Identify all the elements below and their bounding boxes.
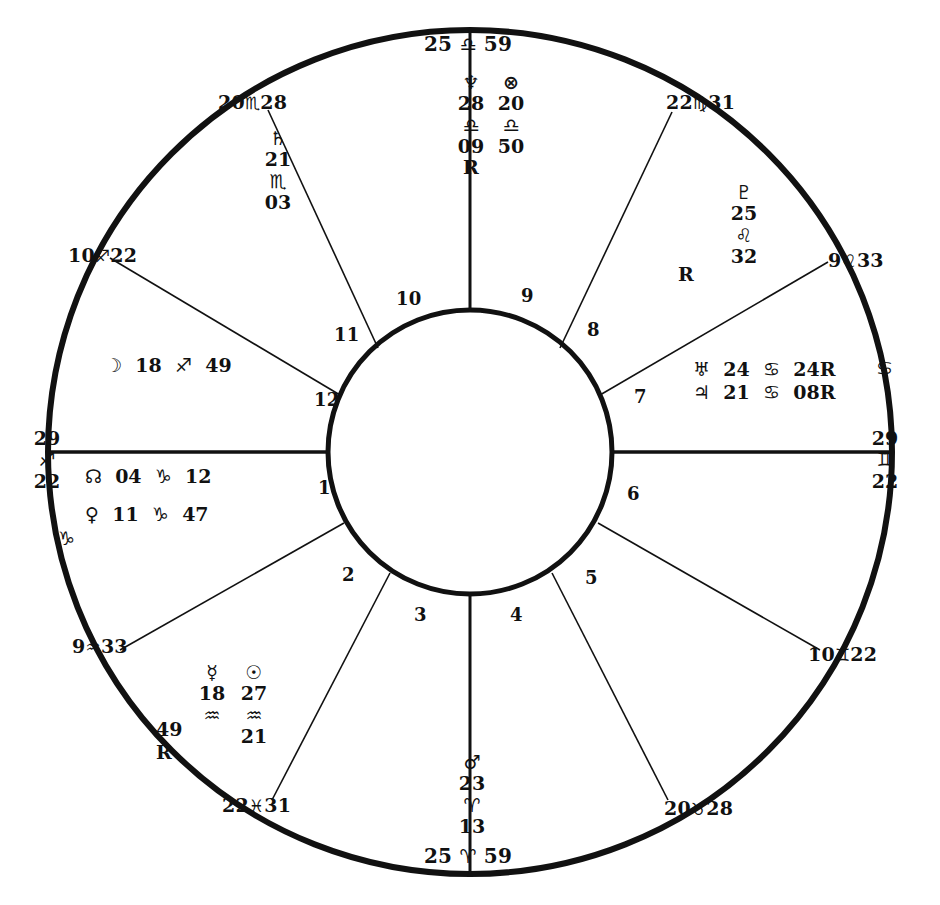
capricorn-icon: ♑: [155, 465, 172, 487]
pisces-icon: ♓: [249, 796, 264, 816]
mars-minute: 13: [450, 816, 494, 837]
cusp-minute: 31: [708, 91, 735, 113]
cusp-label-house-9: 22♍31: [666, 92, 735, 113]
cusp-minute: 33: [857, 249, 884, 271]
planet-row-moon: ☽ 18 ♐ 49: [105, 354, 232, 378]
dsc-label: 29 ♊ 22: [862, 428, 908, 492]
house-number-2: 2: [342, 565, 355, 584]
cusp-label-house-6: 10♊22: [808, 644, 877, 665]
asc-degree: 29: [24, 428, 70, 449]
dsc-minute: 22: [862, 471, 908, 492]
neptune-retrograde: R: [449, 157, 493, 178]
cusp-label-house-2: 9♒33: [72, 636, 128, 657]
astrology-chart-wheel: 25 ♎ 59 25 ♈ 59 29 ♐ 22 29 ♊ 22 ♑ ♋ 20♏2…: [0, 0, 940, 905]
jupiter-icon: ♃: [693, 381, 710, 403]
neptune-minute: 09: [449, 136, 493, 157]
planet-block-part-of-fortune: ⊗20♎50: [489, 72, 533, 157]
house-number-12: 12: [314, 390, 339, 409]
planet-row-uranus: ♅ 24 ♋ 24R: [693, 358, 836, 382]
libra-icon: ♎: [459, 33, 476, 55]
cusp-line-2: [120, 523, 344, 650]
house-number-9: 9: [521, 286, 534, 305]
cusp-label-house-3: 22♓31: [222, 795, 291, 816]
sun-minute: 21: [232, 726, 276, 747]
cancer-icon: ♋: [763, 358, 780, 380]
uranus-icon: ♅: [693, 358, 710, 380]
cusp-degree: 10: [68, 244, 95, 266]
scorpio-icon: ♏: [256, 171, 300, 192]
planet-row-north-node: ☊ 04 ♑ 12: [85, 465, 212, 489]
cusp-degree: 22: [666, 91, 693, 113]
venus-icon: ♀: [85, 503, 99, 525]
planet-row-jupiter: ♃ 21 ♋ 08R: [693, 381, 836, 405]
gemini-icon: ♊: [835, 645, 850, 665]
house-number-10: 10: [396, 289, 421, 308]
uranus-retrograde: R: [820, 358, 836, 380]
virgo-icon: ♍: [693, 93, 708, 113]
cusp-minute: 22: [850, 643, 877, 665]
cusp-line-3: [272, 573, 390, 800]
moon-degree: 18: [135, 354, 161, 376]
cusp-minute: 33: [101, 635, 128, 657]
cusp-line-9: [560, 112, 672, 348]
saturn-degree: 21: [256, 149, 300, 170]
leo-icon: ♌: [841, 251, 856, 271]
sun-icon: ☉: [232, 662, 276, 683]
planet-block-neptune: ♆28♎09R: [449, 72, 493, 178]
venus-minute: 47: [182, 503, 208, 525]
cusp-minute: 31: [264, 794, 291, 816]
gemini-icon: ♊: [862, 449, 908, 470]
planet-block-saturn: ♄21♏03: [256, 128, 300, 213]
house-number-11: 11: [334, 325, 359, 344]
uranus-minute: 24: [793, 358, 819, 380]
house-number-7: 7: [634, 387, 647, 406]
mc-label: 25 ♎ 59: [424, 34, 512, 56]
cusp-degree: 9: [828, 249, 841, 271]
cancer-icon: ♋: [876, 358, 893, 379]
house-number-4: 4: [510, 605, 523, 624]
aquarius-icon: ♒: [190, 705, 234, 726]
leo-icon: ♌: [722, 225, 766, 246]
cusp-label-house-11: 20♏28: [218, 92, 287, 113]
house-number-6: 6: [627, 484, 640, 503]
libra-icon: ♎: [489, 115, 533, 136]
pluto-icon: ♇: [722, 182, 766, 203]
aries-icon: ♈: [459, 845, 476, 867]
planet-row-venus: ♀ 11 ♑ 47: [85, 503, 209, 527]
asc-label: 29 ♐ 22: [24, 428, 70, 492]
jupiter-retrograde: R: [820, 381, 836, 403]
mc-minute: 59: [484, 32, 512, 56]
asc-minute: 22: [24, 471, 70, 492]
neptune-icon: ♆: [449, 72, 493, 93]
mercury-icon: ☿: [190, 662, 234, 683]
planet-block-mars: ♂23♈13: [450, 752, 494, 837]
cusp-degree: 20: [218, 91, 245, 113]
cusp-minute: 22: [110, 244, 137, 266]
scorpio-icon: ♏: [245, 93, 260, 113]
jupiter-degree: 21: [723, 381, 749, 403]
capricorn-icon: ♑: [58, 528, 75, 549]
cusp-line-6: [598, 523, 820, 650]
cusp-degree: 22: [222, 794, 249, 816]
sagittarius-icon: ♐: [175, 354, 192, 376]
ic-degree: 25: [424, 844, 452, 868]
mc-degree: 25: [424, 32, 452, 56]
cusp-minute: 28: [706, 797, 733, 819]
planet-block-sun: ☉27♒21: [232, 662, 276, 747]
saturn-icon: ♄: [256, 128, 300, 149]
taurus-icon: ♉: [691, 799, 706, 819]
aquarius-icon: ♒: [85, 637, 100, 657]
cusp-degree: 10: [808, 643, 835, 665]
sagittarius-icon: ♐: [95, 246, 110, 266]
saturn-minute: 03: [256, 192, 300, 213]
house-number-1: 1: [318, 478, 331, 497]
ic-label: 25 ♈ 59: [424, 846, 512, 868]
aquarius-icon: ♒: [232, 705, 276, 726]
inner-circle: [328, 310, 612, 594]
cusp-label-house-12: 10♐22: [68, 245, 137, 266]
aries-icon: ♈: [450, 795, 494, 816]
capricorn-icon: ♑: [152, 503, 169, 525]
mars-degree: 23: [450, 773, 494, 794]
house-number-5: 5: [585, 568, 598, 587]
venus-degree: 11: [112, 503, 138, 525]
